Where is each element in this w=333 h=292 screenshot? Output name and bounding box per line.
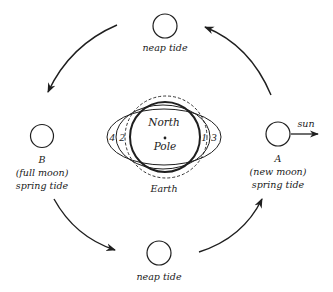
moon-b-phase: (full moon)	[16, 167, 69, 178]
moon-circle	[266, 122, 290, 146]
moon-circle	[147, 241, 171, 265]
moon-circle	[153, 14, 177, 38]
tide-diagram: neap tide neap tide B (full moon) spring…	[0, 0, 333, 292]
moon-bottom: neap tide	[136, 241, 181, 282]
earth-label: Earth	[149, 183, 177, 194]
north-label: North	[147, 116, 180, 128]
moon-a-tide: spring tide	[252, 179, 305, 190]
moon-top: neap tide	[142, 14, 187, 53]
moon-a-phase: (new moon)	[250, 166, 307, 177]
bulge-number-4: 4	[109, 131, 115, 143]
moon-b-letter: B	[38, 154, 46, 165]
moon-circle	[31, 125, 54, 148]
bulge-number-2: 2	[119, 131, 125, 143]
sun-indicator: sun	[291, 118, 318, 134]
moon-a-letter: A	[274, 153, 282, 164]
sun-label: sun	[297, 118, 314, 129]
moon-a-new: A (new moon) spring tide	[250, 122, 307, 190]
north-pole-dot	[164, 137, 167, 140]
orbit-arrow-right-to-top	[205, 27, 271, 95]
earth-system: North Pole Earth 4 2 1 3	[107, 96, 221, 194]
moon-top-label: neap tide	[142, 42, 187, 53]
bulge-number-3: 3	[210, 131, 217, 143]
orbit-arrow-left-to-bottom	[54, 199, 115, 250]
moon-b-tide: spring tide	[16, 180, 69, 191]
moon-b-full: B (full moon) spring tide	[16, 125, 69, 192]
orbit-arrow-top-to-left	[48, 25, 117, 92]
bulge-number-1: 1	[201, 131, 207, 143]
pole-label: Pole	[153, 140, 177, 152]
moon-bottom-label: neap tide	[136, 271, 181, 282]
orbit-arrow-bottom-to-right	[199, 199, 262, 252]
neap-dashed-outline	[125, 96, 207, 178]
